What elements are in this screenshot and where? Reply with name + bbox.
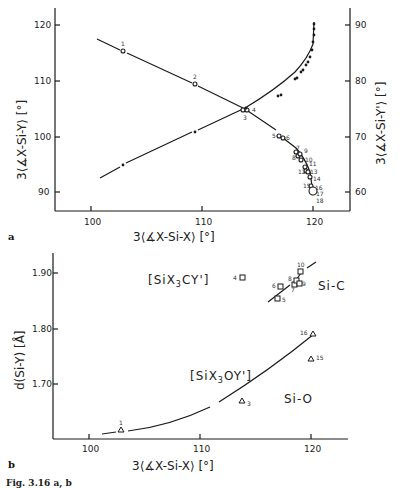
svg-text:4: 4: [233, 274, 237, 281]
svg-text:1: 1: [119, 419, 123, 426]
svg-text:8: 8: [292, 154, 296, 161]
panel-b-y-axis-label: d(Si-Y) [Å]: [12, 330, 27, 390]
svg-text:15: 15: [303, 182, 311, 189]
panel-b-letter: b: [8, 459, 15, 470]
svg-text:1.90: 1.90: [32, 268, 52, 278]
panel-a-x-axis-label: 3⟨∡X-Si-X⟩ [°]: [133, 230, 215, 244]
svg-text:60: 60: [355, 187, 367, 197]
svg-text:4: 4: [252, 106, 256, 113]
panel-b-si-o-curve: [102, 334, 314, 434]
svg-text:2: 2: [193, 73, 197, 80]
svg-text:18: 18: [316, 197, 324, 204]
svg-text:90: 90: [38, 187, 50, 197]
svg-text:6: 6: [272, 282, 276, 289]
si-o-label: Si-O: [284, 392, 313, 406]
svg-text:80: 80: [355, 76, 367, 86]
svg-text:12: 12: [298, 168, 306, 175]
svg-text:5: 5: [282, 296, 286, 303]
panel-a-open-circle-markers: [121, 49, 317, 195]
svg-text:100: 100: [82, 444, 99, 454]
svg-text:11: 11: [309, 160, 317, 167]
sio-group-label: [SiX3OY']: [190, 369, 252, 385]
panel-a-curve-xsiy-prime: [100, 22, 314, 178]
svg-text:1.80: 1.80: [32, 324, 52, 334]
panel-b-x-axis-label: 3⟨∡X-Si-X⟩ [°]: [132, 459, 214, 473]
svg-text:110: 110: [34, 76, 51, 86]
svg-text:110: 110: [195, 217, 212, 227]
svg-text:90: 90: [355, 20, 367, 30]
svg-text:8: 8: [288, 275, 292, 282]
panel-b-annotations: [SiX3CY'] Si-C [SiX3OY'] Si-O: [148, 273, 346, 406]
panel-a-chart: [55, 8, 350, 211]
svg-text:120: 120: [306, 217, 323, 227]
svg-text:10: 10: [297, 261, 305, 268]
svg-text:9: 9: [302, 280, 306, 287]
svg-text:120: 120: [34, 20, 51, 30]
svg-text:3: 3: [247, 400, 251, 407]
svg-text:1: 1: [121, 40, 125, 47]
si-c-label: Si-C: [318, 279, 346, 293]
svg-text:17: 17: [316, 190, 324, 197]
svg-text:110: 110: [193, 444, 210, 454]
panel-a-filled-dot-markers: [122, 23, 316, 167]
svg-text:15: 15: [316, 354, 324, 361]
svg-text:14: 14: [313, 175, 321, 182]
panel-a-letter: a: [8, 231, 15, 242]
panel-a-right-y-axis-label: 3⟨∡X-Si-Y'⟩ [°]: [374, 82, 388, 165]
svg-text:9: 9: [304, 147, 308, 154]
svg-text:5: 5: [272, 132, 276, 139]
svg-text:100: 100: [34, 132, 51, 142]
svg-text:3: 3: [243, 114, 247, 121]
svg-text:1.70: 1.70: [32, 379, 52, 389]
panel-a-curve-xsiy: [97, 39, 312, 186]
svg-text:7: 7: [296, 144, 300, 151]
svg-text:70: 70: [355, 132, 367, 142]
svg-text:13: 13: [310, 168, 318, 175]
svg-text:100: 100: [84, 217, 101, 227]
svg-text:120: 120: [304, 444, 321, 454]
svg-text:7: 7: [291, 286, 295, 293]
panel-a-left-y-axis-label: 3⟨∡X-Si-Y⟩ [°]: [15, 100, 29, 180]
svg-text:6: 6: [286, 134, 290, 141]
svg-text:16: 16: [300, 329, 308, 336]
sic-group-label: [SiX3CY']: [148, 273, 209, 289]
figure-caption: Fig. 3.16 a, b: [6, 478, 72, 488]
